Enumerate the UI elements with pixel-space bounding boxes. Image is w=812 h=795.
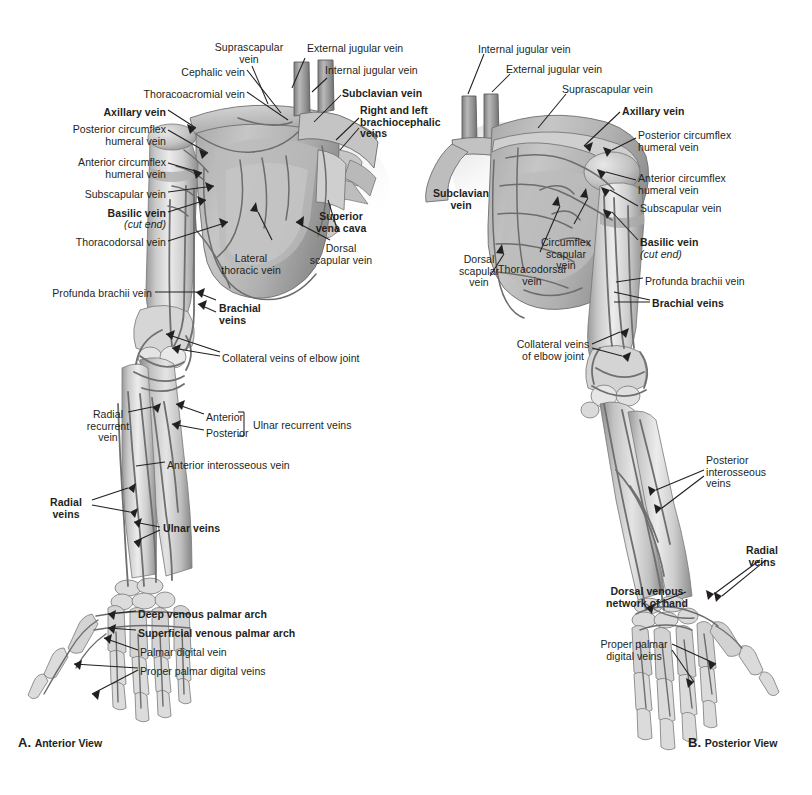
panel-b-view-name: Posterior View	[705, 737, 778, 749]
label-a-ulnar-rec-posterior: Posterior	[206, 428, 248, 440]
label-b-axillary: Axillary vein	[622, 106, 685, 118]
label-a-profunda-brachii: Profunda brachii vein	[52, 288, 152, 300]
label-b-radial-veins: Radial veins	[746, 545, 778, 568]
label-b-subclavian: Subclavian vein	[433, 188, 489, 211]
label-a-ulnar-rec-anterior: Anterior	[206, 412, 243, 424]
label-b-ant-circumflex: Anterior circumflex humeral vein	[638, 173, 726, 196]
label-a-lateral-thoracic: Lateral thoracic vein	[221, 253, 281, 276]
label-b-collateral-elbow: Collateral veins of elbow joint	[517, 339, 590, 362]
label-b-subscapular: Subscapular vein	[640, 203, 721, 215]
label-b-post-circumflex: Posterior circumflex humeral vein	[638, 130, 731, 153]
label-b-proper-palmar-digital: Proper palmar digital veins	[600, 639, 667, 662]
label-a-basilic-cutend: (cut end)	[124, 219, 166, 231]
label-a-superior-vena-cava: Superior vena cava	[316, 211, 367, 234]
label-a-ant-interosseous: Anterior interosseous vein	[167, 460, 290, 472]
label-a-brachial: Brachial veins	[219, 303, 261, 326]
label-a-thoracoacromial: Thoracoacromial vein	[144, 89, 245, 101]
label-b-basilic-cutend: (cut end)	[640, 249, 682, 261]
label-b-dorsal-venous-network: Dorsal venous network of hand	[606, 586, 688, 609]
panel-a-caption: A. Anterior View	[18, 735, 102, 750]
panel-a-view-name: Anterior View	[35, 737, 103, 749]
label-b-thoracodorsal: Thoracodorsal vein	[498, 264, 566, 287]
label-a-ant-circumflex: Anterior circumflex humeral vein	[78, 157, 166, 180]
label-a-proper-palmar-digital: Proper palmar digital veins	[140, 666, 266, 678]
label-b-basilic: Basilic vein	[640, 237, 698, 249]
label-a-radial-veins: Radial veins	[50, 497, 82, 520]
label-a-deep-palmar-arch: Deep venous palmar arch	[138, 609, 267, 621]
figure-canvas: Suprascapular veinExternal jugular veinC…	[0, 0, 812, 795]
label-a-ulnar-recurrent: Ulnar recurrent veins	[253, 420, 352, 432]
label-a-brachiocephalic: Right and left brachiocephalic veins	[360, 105, 441, 140]
label-a-collateral-elbow: Collateral veins of elbow joint	[222, 353, 360, 365]
label-b-internal-jugular: Internal jugular vein	[478, 44, 571, 56]
label-b-brachial: Brachial veins	[652, 298, 724, 310]
label-a-post-circumflex: Posterior circumflex humeral vein	[73, 124, 166, 147]
label-a-superficial-palmar: Superficial venous palmar arch	[138, 628, 295, 640]
label-a-subscapular: Subscapular vein	[85, 189, 166, 201]
panel-b-caption: B. Posterior View	[688, 735, 777, 750]
panel-b-letter: B.	[688, 735, 705, 750]
label-a-thoracodorsal: Thoracodorsal vein	[76, 237, 166, 249]
label-b-profunda-brachii: Profunda brachii vein	[645, 276, 745, 288]
label-b-external-jugular: External jugular vein	[506, 64, 602, 76]
panel-a-letter: A.	[18, 735, 35, 750]
label-a-ulnar-veins: Ulnar veins	[163, 523, 220, 535]
label-a-dorsal-scapular: Dorsal scapular vein	[310, 243, 373, 266]
label-b-post-interosseous: Posterior interosseous veins	[706, 455, 766, 490]
label-a-external-jugular: External jugular vein	[307, 43, 403, 55]
label-b-suprascapular: Suprascapular vein	[562, 84, 653, 96]
label-a-suprascapular: Suprascapular vein	[215, 42, 283, 65]
label-a-axillary: Axillary vein	[103, 107, 166, 119]
label-a-internal-jugular: Internal jugular vein	[325, 65, 418, 77]
label-a-cephalic: Cephalic vein	[181, 67, 245, 79]
label-a-radial-recurrent: Radial recurrent vein	[87, 409, 129, 444]
label-a-subclavian: Subclavian vein	[342, 88, 422, 100]
label-a-palmar-digital: Palmar digital vein	[140, 647, 227, 659]
label-b-dorsal-scapular: Dorsal scapular vein	[459, 254, 499, 289]
